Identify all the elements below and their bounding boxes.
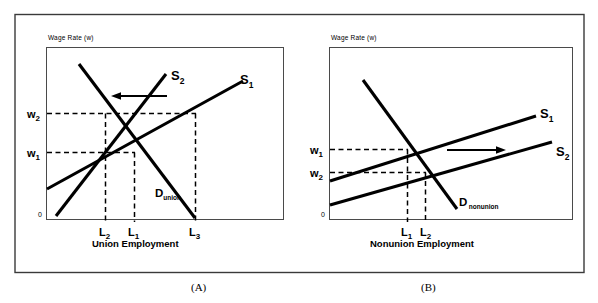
panel-b-curve-label-s1-sub: 1 — [549, 114, 554, 124]
panel-a-caption: (A) — [191, 281, 206, 293]
panel-a-x-tick-l3-base: L — [189, 226, 196, 238]
panel-a-demand-label: Dunion — [155, 183, 181, 201]
panel-a-y-tick-w1-base: w — [27, 147, 36, 159]
panel-a-curve-label-s2-base: S — [171, 68, 180, 83]
panel-b-demand-label: Dnonunion — [459, 192, 497, 210]
panel-a-curve-label-s1: S1 — [240, 70, 253, 88]
panel-b-y-tick-w2: w2 — [310, 163, 323, 181]
panel-a-y-tick-w1-sub: 1 — [36, 153, 40, 162]
panel-b-supply-curve-s2 — [330, 142, 552, 205]
panel-b-x-axis-title: Nonunion Employment — [370, 238, 474, 249]
panel-b-x-tick-l1-base: L — [401, 226, 408, 238]
figure-root: Wage Rate (w) 0 w2 w1 L2 L1 L3 S2 S1 — [0, 0, 598, 303]
panel-a-curve-label-s1-sub: 1 — [249, 80, 254, 90]
panel-a-shift-arrow-left — [111, 92, 167, 100]
panel-b-y-tick-w1: w1 — [310, 140, 323, 158]
panel-b-y-tick-w2-base: w — [310, 167, 319, 179]
panel-b-curve-label-s1-base: S — [540, 106, 549, 121]
panel-b — [330, 48, 573, 223]
panel-a-origin-label: 0 — [38, 211, 42, 218]
panel-b-origin-label: 0 — [321, 211, 325, 218]
panel-b-demand-label-base: D — [459, 196, 467, 208]
panel-a-curve-label-s1-base: S — [240, 72, 249, 87]
panel-b-supply-curve-s1 — [330, 116, 536, 181]
figure-canvas — [0, 0, 598, 303]
panel-b-demand-label-sub: nonunion — [469, 203, 499, 210]
panel-b-curve-label-s1: S1 — [540, 104, 553, 122]
panel-a-y-tick-w2: w2 — [27, 104, 40, 122]
panel-a-y-tick-w2-sub: 2 — [36, 114, 40, 123]
panel-a-curve-label-s2-sub: 2 — [180, 76, 185, 86]
panel-b-x-tick-l2-base: L — [420, 226, 427, 238]
panel-b-curve-label-s2: S2 — [556, 142, 569, 160]
panel-a-y-axis-title: Wage Rate (w) — [48, 34, 94, 41]
panel-b-y-tick-w2-sub: 2 — [319, 173, 323, 182]
panel-a-y-tick-w2-base: w — [27, 108, 36, 120]
panel-b-y-tick-w1-base: w — [310, 144, 319, 156]
panel-b-caption: (B) — [421, 281, 436, 293]
panel-b-curve-label-s2-sub: 2 — [565, 152, 570, 162]
panel-b-y-tick-w1-sub: 1 — [319, 150, 323, 159]
panel-a-x-tick-l2-base: L — [99, 226, 106, 238]
panel-a-x-tick-l3: L3 — [189, 222, 200, 240]
panel-a-supply-curve-s1 — [47, 81, 243, 189]
panel-b-y-axis-title: Wage Rate (w) — [331, 34, 377, 41]
panel-b-shift-arrow-right — [447, 146, 506, 154]
panel-a-x-tick-l1-base: L — [128, 226, 135, 238]
panel-b-curve-label-s2-base: S — [556, 144, 565, 159]
panel-a-y-tick-w1: w1 — [27, 143, 40, 161]
panel-a-x-axis-title: Union Employment — [92, 238, 179, 249]
panel-a-x-tick-l3-sub: 3 — [196, 232, 200, 241]
panel-a-demand-label-sub: union — [163, 194, 181, 201]
panel-a-curve-label-s2: S2 — [171, 66, 184, 84]
